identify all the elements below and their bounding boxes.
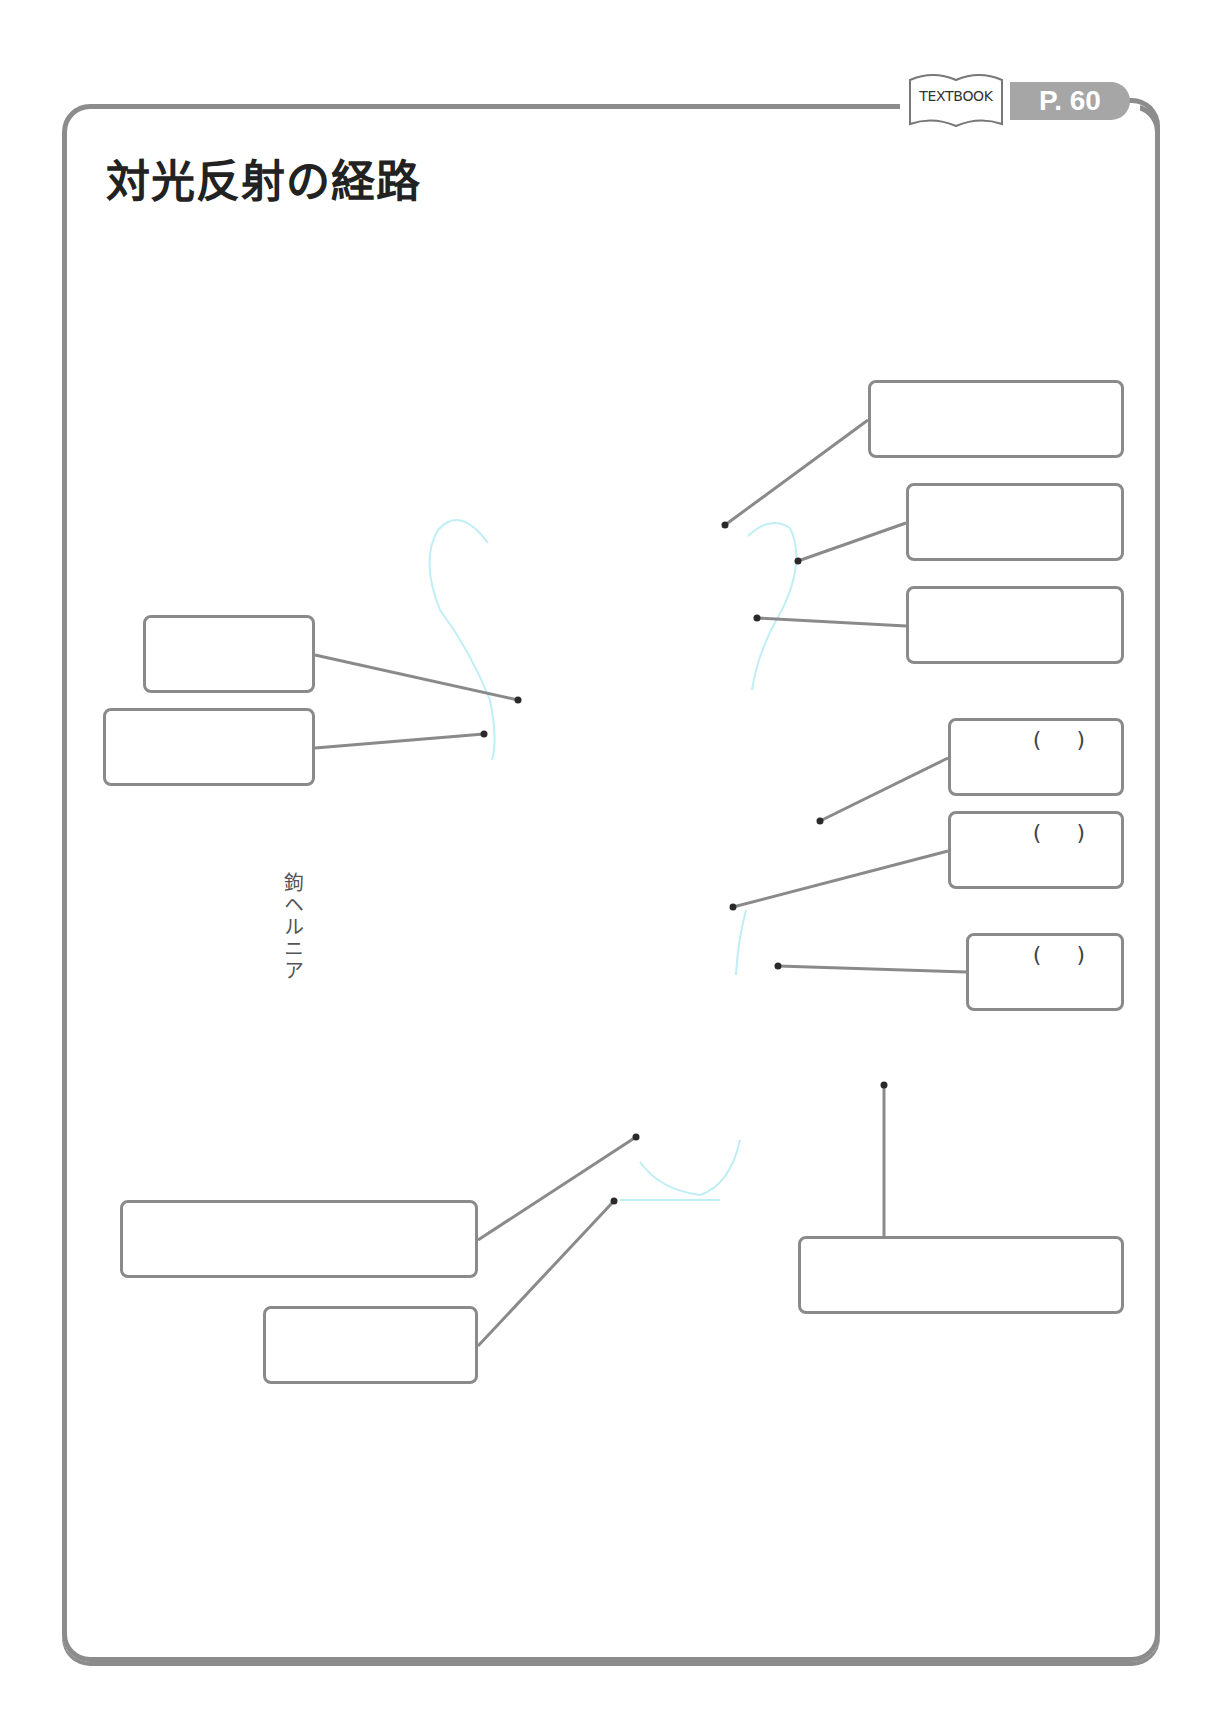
paren-blank: ( ) [1033, 727, 1099, 752]
answer-box-11[interactable] [798, 1236, 1124, 1314]
answer-box-6[interactable]: ( ) [948, 718, 1124, 796]
answer-box-7[interactable]: ( ) [948, 811, 1124, 889]
uncal-herniation-label: 鉤ヘルニア [278, 872, 307, 982]
answer-box-9[interactable] [120, 1200, 478, 1278]
diagram-outline [429, 520, 796, 1200]
paren-blank: ( ) [1033, 942, 1099, 967]
answer-box-8[interactable]: ( ) [966, 933, 1124, 1011]
answer-box-1[interactable] [868, 380, 1124, 458]
answer-box-2[interactable] [906, 483, 1124, 561]
answer-box-5[interactable] [103, 708, 315, 786]
paren-blank: ( ) [1033, 820, 1099, 845]
answer-box-3[interactable] [906, 586, 1124, 664]
answer-box-4[interactable] [143, 615, 315, 693]
answer-box-10[interactable] [263, 1306, 478, 1384]
leader-dots [481, 522, 888, 1205]
